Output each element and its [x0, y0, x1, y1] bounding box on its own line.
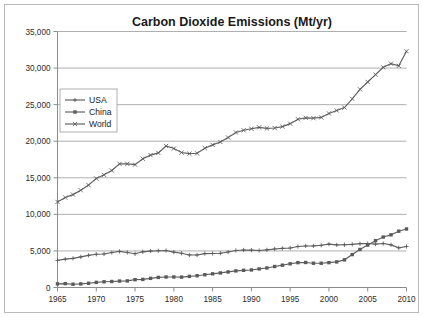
- data-point-marker: [304, 261, 307, 264]
- x-tick-label: 1985: [204, 295, 223, 304]
- data-point-marker: [118, 279, 121, 282]
- data-point-marker: [405, 227, 408, 230]
- data-point-marker: [374, 239, 377, 242]
- data-point-marker: [86, 183, 90, 187]
- data-point-marker: [102, 252, 106, 256]
- data-point-marker: [95, 281, 98, 284]
- legend-label: USA: [89, 95, 107, 105]
- data-point-marker: [71, 283, 74, 286]
- chart-legend: USAChinaWorld: [60, 89, 117, 132]
- x-tick-label: 1970: [87, 295, 106, 304]
- data-point-marker: [219, 271, 222, 274]
- y-tick-label: 15,000: [25, 174, 50, 183]
- y-tick-label: 5,000: [30, 247, 51, 256]
- data-point-marker: [281, 263, 284, 266]
- data-point-marker: [117, 249, 121, 253]
- data-point-marker: [141, 278, 144, 281]
- data-point-marker: [335, 260, 338, 263]
- data-point-marker: [327, 261, 330, 264]
- data-point-marker: [350, 242, 354, 246]
- y-tick-label: 25,000: [25, 101, 50, 110]
- data-point-marker: [257, 248, 261, 252]
- data-point-marker: [273, 247, 277, 251]
- y-tick-label: 20,000: [25, 137, 50, 146]
- data-point-marker: [102, 280, 105, 283]
- data-point-marker: [226, 135, 230, 139]
- data-point-marker: [381, 65, 385, 69]
- data-point-marker: [381, 241, 385, 245]
- data-point-marker: [133, 278, 136, 281]
- legend-label: China: [89, 107, 112, 117]
- x-tick-label: 1980: [165, 295, 184, 304]
- data-point-marker: [79, 282, 82, 285]
- data-point-marker: [311, 244, 315, 248]
- data-point-marker: [141, 250, 145, 254]
- x-tick-label: 2010: [397, 295, 416, 304]
- data-point-marker: [94, 252, 98, 256]
- y-tick-label: 10,000: [25, 210, 50, 219]
- data-point-marker: [358, 242, 362, 246]
- data-point-marker: [56, 282, 59, 285]
- data-point-marker: [195, 274, 198, 277]
- data-point-marker: [351, 253, 354, 256]
- x-axis-tick-labels: 1965197019751980198519901995200020052010: [48, 295, 416, 304]
- x-tick-label: 1965: [48, 295, 67, 304]
- data-point-marker: [157, 276, 160, 279]
- data-point-marker: [164, 248, 168, 252]
- data-point-marker: [226, 270, 229, 273]
- data-point-marker: [71, 256, 75, 260]
- co2-emissions-line-chart: 05,00010,00015,00020,00025,00030,00035,0…: [0, 0, 423, 317]
- y-tick-label: 35,000: [25, 28, 50, 37]
- data-point-marker: [319, 262, 322, 265]
- x-tick-label: 1975: [126, 295, 145, 304]
- data-point-marker: [358, 248, 361, 251]
- data-point-marker: [304, 244, 308, 248]
- data-series-group: [55, 49, 408, 286]
- data-point-marker: [389, 233, 392, 236]
- data-point-marker: [397, 229, 400, 232]
- data-point-marker: [382, 235, 385, 238]
- data-point-marker: [234, 269, 237, 272]
- data-point-marker: [343, 258, 346, 261]
- data-point-marker: [79, 188, 83, 192]
- data-point-marker: [133, 252, 137, 256]
- data-point-marker: [280, 246, 284, 250]
- data-point-marker: [148, 249, 152, 253]
- data-point-marker: [79, 255, 83, 259]
- series-line: [58, 243, 407, 260]
- data-point-marker: [156, 249, 160, 253]
- data-point-marker: [126, 279, 129, 282]
- data-point-marker: [211, 272, 214, 275]
- data-point-marker: [218, 251, 222, 255]
- data-point-marker: [64, 282, 67, 285]
- data-point-marker: [366, 80, 370, 84]
- data-point-marker: [373, 73, 377, 77]
- data-point-marker: [404, 49, 408, 53]
- data-point-marker: [389, 243, 393, 247]
- x-tick-label: 1990: [242, 295, 261, 304]
- data-point-marker: [288, 246, 292, 250]
- data-point-marker: [203, 146, 207, 150]
- data-point-marker: [203, 273, 206, 276]
- data-point-marker: [63, 257, 67, 261]
- series-line: [58, 229, 407, 284]
- data-point-marker: [242, 269, 245, 272]
- data-point-marker: [288, 262, 291, 265]
- data-point-marker: [102, 173, 106, 177]
- data-point-marker: [203, 251, 207, 255]
- data-point-marker: [250, 268, 253, 271]
- data-point-marker: [73, 110, 76, 113]
- data-point-marker: [149, 277, 152, 280]
- data-point-marker: [358, 87, 362, 91]
- data-point-marker: [55, 258, 59, 262]
- chart-title: Carbon Dioxide Emissions (Mt/yr): [132, 15, 332, 29]
- data-point-marker: [188, 275, 191, 278]
- data-point-marker: [141, 157, 145, 161]
- chart-figure: 05,00010,00015,00020,00025,00030,00035,0…: [0, 0, 423, 317]
- data-point-marker: [397, 246, 401, 250]
- data-point-marker: [296, 244, 300, 248]
- data-point-marker: [172, 275, 175, 278]
- data-point-marker: [110, 168, 114, 172]
- data-point-marker: [249, 248, 253, 252]
- x-tick-label: 1995: [281, 295, 300, 304]
